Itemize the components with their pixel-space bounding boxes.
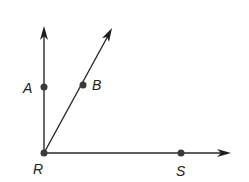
label-B: B bbox=[92, 77, 101, 93]
point-B bbox=[80, 82, 87, 89]
point-A bbox=[41, 84, 48, 91]
point-S bbox=[178, 150, 185, 157]
geometry-diagram: A B R S bbox=[0, 0, 249, 182]
ray-RB-arrowhead bbox=[102, 28, 112, 42]
label-S: S bbox=[176, 163, 186, 179]
label-R: R bbox=[33, 161, 43, 177]
ray-RB bbox=[44, 34, 109, 153]
label-A: A bbox=[22, 80, 32, 96]
point-R bbox=[41, 150, 48, 157]
